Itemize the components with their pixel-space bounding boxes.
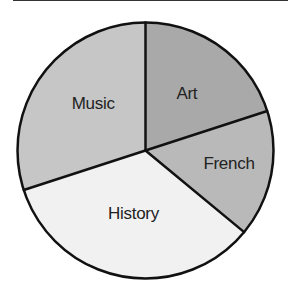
slice-label-history: History — [108, 204, 160, 223]
slice-label-french: French — [203, 154, 254, 173]
pie-chart: ArtFrenchHistoryMusic — [0, 0, 288, 286]
slice-label-music: Music — [72, 94, 116, 113]
slice-label-art: Art — [176, 84, 197, 103]
